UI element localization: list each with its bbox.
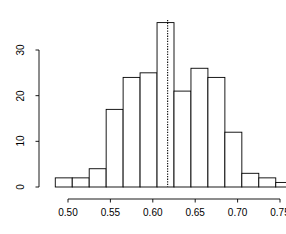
histogram-chart: [0, 0, 286, 234]
histogram-bar: [191, 68, 208, 187]
histogram-bar: [55, 178, 72, 187]
y-axis-tick-label: 10: [16, 131, 26, 151]
x-axis-tick-label: 0.70: [223, 208, 253, 218]
y-axis-tick-label: 30: [16, 40, 26, 60]
y-axis-tick-label: 0: [16, 177, 26, 197]
histogram-bar: [72, 178, 89, 187]
x-axis-tick-label: 0.65: [180, 208, 210, 218]
histogram-bar: [242, 173, 259, 187]
x-axis-tick-label: 0.55: [95, 208, 125, 218]
histogram-bar: [225, 132, 242, 187]
x-axis-tick-label: 0.50: [53, 208, 83, 218]
y-axis-tick-label: 20: [16, 86, 26, 106]
x-axis-tick-label: 0.75: [265, 208, 286, 218]
histogram-bar: [276, 182, 286, 187]
histogram-bar: [157, 23, 174, 187]
histogram-bar: [123, 77, 140, 187]
histogram-bar: [106, 109, 123, 187]
x-axis-tick-label: 0.60: [138, 208, 168, 218]
histogram-bar: [89, 169, 106, 187]
histogram-bar: [174, 91, 191, 187]
histogram-bar: [259, 178, 276, 187]
histogram-bar: [140, 73, 157, 187]
histogram-bar: [208, 77, 225, 187]
